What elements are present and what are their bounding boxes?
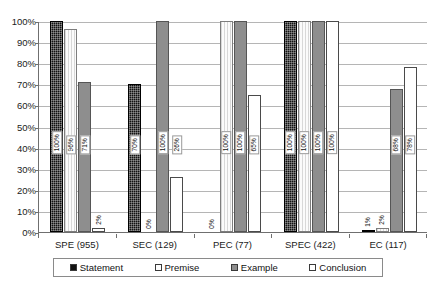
legend-item-example: Example [231,262,278,273]
bar-value-label: 100% [299,131,309,154]
bar-value-label: 70% [129,135,139,154]
bar-value-label: 26% [171,135,181,154]
y-axis-tick-label: 70% [2,81,36,91]
bar-value-label: 68% [391,135,401,154]
bar-statement-0 [50,21,63,232]
bar-value-label: 65% [249,135,259,154]
legend-swatch-icon [70,264,77,271]
legend-swatch-icon [309,264,316,271]
bar-example-4 [390,89,403,232]
bar-conclusion-1 [170,177,183,232]
bar-conclusion-3 [326,21,339,232]
legend-item-conclusion: Conclusion [309,262,366,273]
bar-group: 100%96%71%2% [39,22,117,232]
y-axis-tick-label: 90% [2,38,36,48]
bar-value-label: 100% [327,131,337,154]
bar-value-label: 100% [285,131,295,154]
x-axis-tick [194,234,195,238]
bar-example-2 [234,21,247,232]
bar-example-0 [78,82,91,232]
x-axis-tick [349,234,350,238]
bar-premise-4 [376,228,389,232]
y-axis-tick-label: 50% [2,123,36,133]
legend-label: Statement [80,262,123,273]
bar-chart: 100%90%80%70%60%50%40%30%20%10%0% 100%96… [0,0,435,284]
bar-value-label: 100% [313,131,323,154]
bar-value-label: 71% [80,135,90,154]
y-axis-tick-label: 60% [2,102,36,112]
legend-swatch-icon [155,264,162,271]
bar-statement-1 [128,84,141,232]
bar-group: 1%2%68%78% [350,22,428,232]
y-axis-tick-label: 20% [2,186,36,196]
x-axis-category-label: SEC (129) [133,239,177,250]
bar-value-label: 2% [96,215,102,225]
y-axis: 100%90%80%70%60%50%40%30%20%10%0% [0,22,36,233]
y-axis-tick-label: 0% [2,228,36,238]
bar-value-label: 100% [221,131,231,154]
y-axis-tick-label: 80% [2,59,36,69]
x-axis-tick [426,234,427,238]
legend-label: Premise [165,262,200,273]
legend-item-premise: Premise [155,262,200,273]
x-axis-category-label: PEC (77) [213,239,252,250]
y-axis-tick-label: 30% [2,165,36,175]
bar-premise-3 [298,21,311,232]
legend-swatch-icon [231,264,238,271]
bar-value-label: 100% [235,131,245,154]
y-axis-tick-label: 100% [2,17,36,27]
x-axis: SPE (955)SEC (129)PEC (77)SPEC (422)EC (… [38,234,427,252]
y-axis-tick-label: 10% [2,207,36,217]
bar-statement-4 [362,230,375,232]
plot-area: 100%96%71%2%70%0%100%26%0%100%100%65%100… [38,22,427,233]
bar-example-1 [156,21,169,232]
bar-premise-2 [220,21,233,232]
bar-conclusion-2 [248,95,261,232]
bar-statement-3 [284,21,297,232]
x-axis-category-label: EC (117) [369,239,406,250]
y-axis-tick-label: 40% [2,144,36,154]
x-axis-tick [116,234,117,238]
legend-item-statement: Statement [70,262,123,273]
bar-value-label: 2% [379,215,385,225]
bar-group: 0%100%100%65% [195,22,273,232]
bar-value-label: 100% [52,131,62,154]
bar-value-label: 0% [209,219,215,229]
chart-legend: StatementPremiseExampleConclusion [53,258,383,277]
bar-value-label: 96% [66,135,76,154]
bar-conclusion-0 [92,228,105,232]
x-axis-category-label: SPE (955) [55,239,99,250]
bar-group: 70%0%100%26% [117,22,195,232]
bar-premise-0 [64,29,77,232]
bar-value-label: 1% [365,217,371,227]
bar-example-3 [312,21,325,232]
bar-value-label: 0% [145,219,151,229]
bar-group: 100%100%100%100% [272,22,350,232]
legend-label: Conclusion [319,262,366,273]
bar-value-label: 78% [405,135,415,154]
x-axis-tick [271,234,272,238]
legend-label: Example [241,262,278,273]
x-axis-category-label: SPEC (422) [285,239,336,250]
bar-value-label: 100% [157,131,167,154]
x-axis-tick [38,234,39,238]
